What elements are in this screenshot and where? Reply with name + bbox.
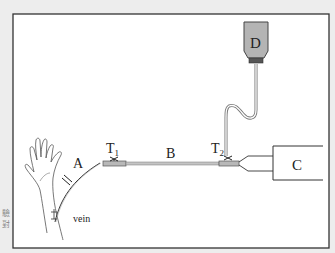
tube-B <box>126 162 219 165</box>
diagram-canvas: D C B A T1 T2 vein <box>0 0 335 253</box>
side-char: 對 <box>2 219 12 230</box>
label-D: D <box>250 35 261 51</box>
label-B: B <box>166 146 175 161</box>
label-A: A <box>73 156 84 171</box>
label-vein: vein <box>73 213 90 224</box>
connector-T2 <box>219 161 239 166</box>
bag-D-cap <box>249 58 263 63</box>
side-char: 驗 <box>2 208 12 219</box>
connector-T1 <box>103 161 126 166</box>
label-C: C <box>292 157 302 173</box>
diagram-frame <box>13 14 329 248</box>
side-watermark-text: 驗 對 <box>2 208 12 230</box>
